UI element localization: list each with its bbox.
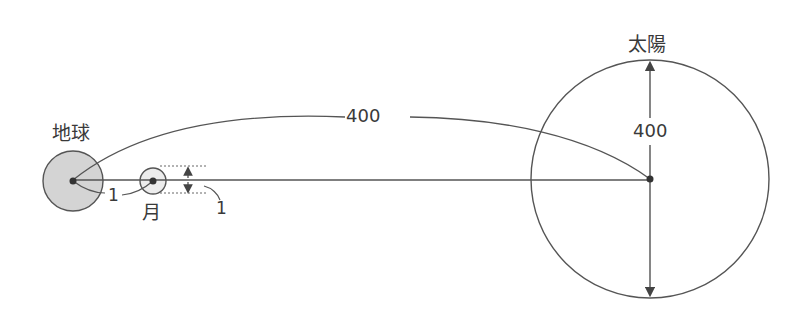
earth-label: 地球 bbox=[52, 124, 90, 143]
earth-moon-distance-label: 1 bbox=[108, 187, 119, 204]
sun-diameter-label: 400 bbox=[632, 122, 668, 140]
sun-center-dot bbox=[647, 176, 654, 183]
sun-label: 太陽 bbox=[628, 35, 666, 54]
earth-center-dot bbox=[70, 178, 77, 185]
earth-sun-distance-label: 400 bbox=[346, 107, 380, 125]
moon-center-dot bbox=[150, 178, 157, 185]
earth-sun-distance-arc bbox=[73, 116, 345, 180]
diagram-canvas bbox=[0, 0, 801, 326]
moon-diameter-label: 1 bbox=[216, 200, 227, 217]
moon-label: 月 bbox=[142, 203, 161, 222]
